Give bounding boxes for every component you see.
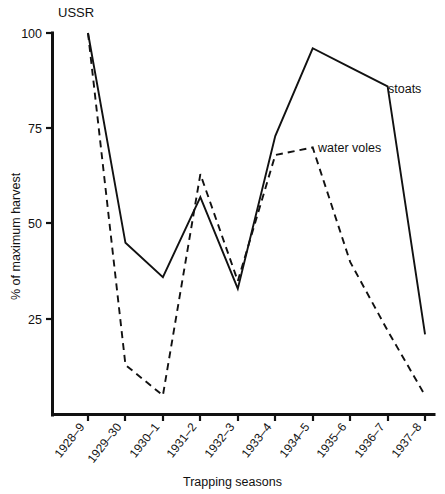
xtick-label-1931-2: 1931–2 xyxy=(164,420,200,460)
panel-label: USSR xyxy=(58,5,94,20)
x-axis-tick-labels: 1928–9 1929–30 1930–1 1931–2 1932–3 1933… xyxy=(52,420,425,466)
xtick-label-1935-6: 1935–6 xyxy=(314,420,350,460)
ytick-label-100: 100 xyxy=(21,27,42,41)
xtick-label-1937-8: 1937–8 xyxy=(389,420,425,460)
y-axis-title: % of maximum harvest xyxy=(9,172,23,300)
x-axis-title: Trapping seasons xyxy=(183,475,282,489)
xtick-label-1936-7: 1936–7 xyxy=(352,420,388,460)
ytick-label-50: 50 xyxy=(28,217,42,231)
xtick-label-1928-9: 1928–9 xyxy=(52,420,88,460)
xtick-label-1929-30: 1929–30 xyxy=(85,420,125,466)
xtick-label-1932-3: 1932–3 xyxy=(202,420,238,460)
ytick-label-25: 25 xyxy=(28,313,42,327)
chart-figure: USSR 100 75 50 25 % of maximum harvest xyxy=(0,0,445,494)
xtick-label-1934-5: 1934–5 xyxy=(277,420,313,460)
xtick-label-1933-4: 1933–4 xyxy=(239,420,275,460)
y-axis-tick-labels: 100 75 50 25 xyxy=(21,27,42,327)
ytick-label-75: 75 xyxy=(28,122,42,136)
xtick-label-1930-1: 1930–1 xyxy=(127,420,163,460)
series-line-stoats xyxy=(88,33,425,334)
series-annotation-water-voles: water voles xyxy=(317,141,381,155)
line-chart: USSR 100 75 50 25 % of maximum harvest xyxy=(0,0,445,494)
series-annotation-stoats: stoats xyxy=(388,82,421,96)
